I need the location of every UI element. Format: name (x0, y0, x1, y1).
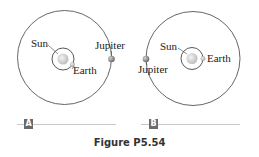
sun-label: Sun (160, 40, 178, 52)
panel-a-badge: A (24, 119, 33, 129)
figure-caption: Figure P5.54 (0, 137, 259, 148)
svg-text:Sun: Sun (31, 37, 49, 49)
sun-leader-line (48, 45, 58, 54)
orbit-diagram: Sun Earth Jupiter Sun Earth Jupiter (0, 0, 259, 157)
earth-label: Earth (207, 52, 231, 64)
svg-text:Earth: Earth (73, 64, 97, 76)
svg-text:Jupiter: Jupiter (138, 63, 168, 75)
panel-b-badge: B (149, 119, 158, 129)
svg-text:Jupiter: Jupiter (95, 39, 125, 51)
earth-label: Earth (73, 64, 97, 76)
sun-icon (187, 53, 198, 64)
earth-icon (201, 56, 205, 60)
panel-a: Sun Earth Jupiter (18, 11, 126, 105)
panel-b: Sun Earth Jupiter (138, 12, 240, 106)
jupiter-icon (108, 56, 115, 63)
sun-label: Sun (31, 37, 49, 49)
jupiter-label: Jupiter (138, 63, 168, 75)
svg-text:Earth: Earth (207, 52, 231, 64)
svg-text:Sun: Sun (160, 40, 178, 52)
jupiter-label: Jupiter (95, 39, 125, 51)
jupiter-icon (143, 56, 150, 63)
sun-icon (58, 54, 69, 65)
